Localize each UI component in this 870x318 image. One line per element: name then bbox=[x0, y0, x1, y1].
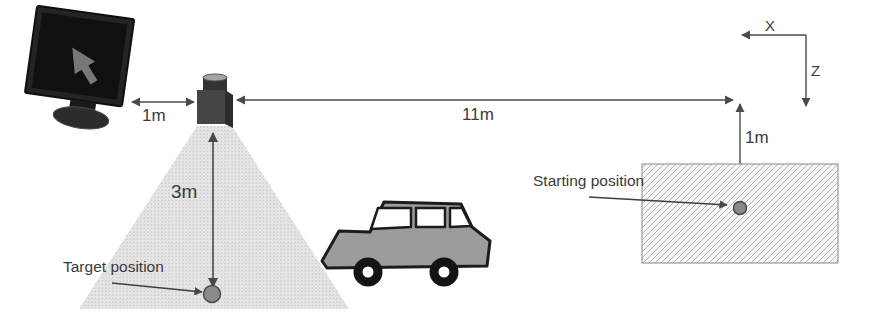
lidar-sensor bbox=[197, 74, 233, 128]
label-axis-x: X bbox=[765, 18, 775, 34]
coordinate-axes bbox=[742, 35, 806, 106]
label-starting-position: Starting position bbox=[533, 173, 644, 189]
target-position-dot bbox=[204, 286, 221, 303]
sensor-body-side bbox=[225, 90, 233, 128]
label-distance-start-offset: 1m bbox=[745, 129, 769, 147]
starting-position-dot bbox=[734, 202, 747, 215]
label-distance-sensor-target: 3m bbox=[171, 182, 197, 202]
label-distance-monitor-sensor: 1m bbox=[142, 107, 166, 125]
setup-diagram: 1m 11m 1m 3m X Z Target position Startin… bbox=[0, 0, 870, 318]
sensor-body-front bbox=[197, 90, 225, 124]
label-target-position: Target position bbox=[63, 259, 164, 275]
car-window-front bbox=[371, 208, 411, 229]
monitor bbox=[21, 6, 134, 134]
car-wheel-rear-hub bbox=[439, 267, 450, 278]
car-window-middle bbox=[416, 208, 445, 227]
label-axis-z: Z bbox=[811, 63, 820, 79]
sensor-cap bbox=[203, 74, 227, 81]
car-wheel-front-hub bbox=[363, 267, 374, 278]
car-side-view bbox=[322, 202, 490, 287]
projection-cone bbox=[79, 126, 349, 309]
monitor-base bbox=[52, 104, 110, 133]
car-window-rear bbox=[450, 208, 471, 227]
label-distance-sensor-startline: 11m bbox=[462, 106, 494, 124]
